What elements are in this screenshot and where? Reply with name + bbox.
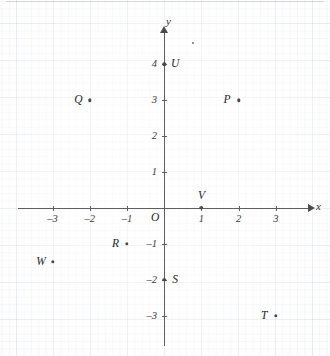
y-tick-mark [162, 136, 167, 137]
x-tick-label: –2 [85, 214, 96, 225]
origin-label: O [151, 212, 159, 224]
plot-area: x y O –3–2–11234321–1–2–3 PQRSTUVW [0, 0, 330, 356]
y-tick-label: 4 [152, 59, 157, 70]
x-axis-arrowhead [308, 204, 315, 212]
y-tick-mark [162, 244, 167, 245]
x-tick-mark [53, 206, 54, 211]
x-tick-label: 1 [199, 214, 204, 225]
point-label-u: U [171, 59, 179, 71]
x-tick-label: –1 [122, 214, 133, 225]
coordinate-plane-figure: x y O –3–2–11234321–1–2–3 PQRSTUVW [0, 0, 330, 356]
y-tick-mark [162, 100, 167, 101]
x-tick-mark [127, 206, 128, 211]
x-tick-mark [90, 206, 91, 211]
data-point-s [162, 278, 165, 281]
y-tick-mark [162, 316, 167, 317]
point-label-s: S [172, 274, 178, 286]
data-point-v [200, 206, 203, 209]
y-tick-mark [162, 172, 167, 173]
x-axis-line [18, 208, 312, 209]
x-tick-label: 3 [273, 214, 278, 225]
x-tick-mark [239, 206, 240, 211]
point-label-v: V [198, 190, 205, 202]
data-point-r [125, 242, 128, 245]
y-tick-label: 3 [152, 95, 157, 106]
point-label-t: T [261, 310, 267, 322]
y-axis-label: y [166, 16, 171, 27]
point-label-q: Q [74, 95, 82, 107]
x-tick-label: 2 [236, 214, 241, 225]
data-point-q [88, 99, 91, 102]
point-label-r: R [112, 238, 119, 250]
x-tick-mark [276, 206, 277, 211]
point-label-p: P [224, 95, 231, 107]
data-point-u [162, 63, 165, 66]
y-tick-label: –2 [147, 275, 158, 286]
point-label-w: W [36, 256, 46, 268]
data-point-w [51, 260, 54, 263]
y-axis-line [164, 30, 165, 346]
y-axis-arrowhead [160, 26, 168, 33]
y-tick-label: –3 [147, 310, 158, 321]
data-point-t [274, 314, 277, 317]
data-point-p [237, 99, 240, 102]
y-tick-label: –1 [147, 239, 158, 250]
x-tick-label: –3 [47, 214, 58, 225]
y-tick-label: 2 [152, 131, 157, 142]
unlabeled-mark [192, 42, 194, 44]
y-tick-label: 1 [152, 167, 157, 178]
x-axis-label: x [316, 201, 321, 212]
